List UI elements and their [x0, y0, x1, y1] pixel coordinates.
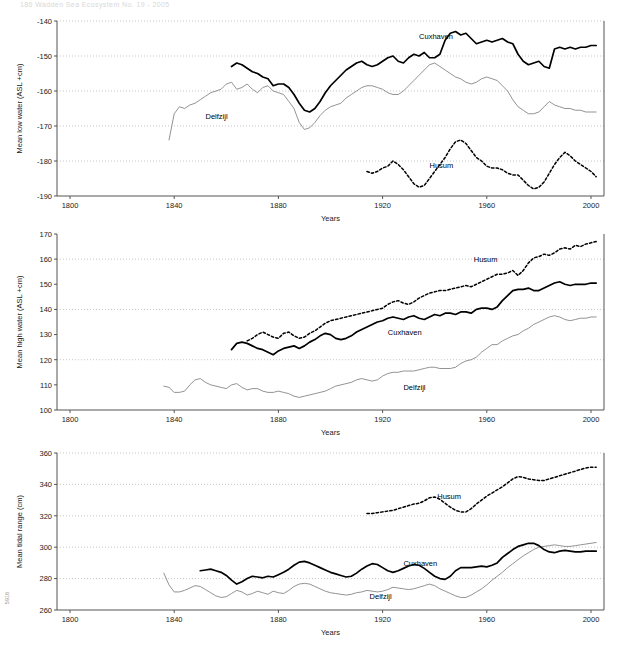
x-axis-title: Years: [321, 214, 340, 222]
series-label-husum: Husum: [474, 255, 498, 264]
x-tick-label: 1880: [270, 201, 287, 210]
y-tick-label: 100: [39, 406, 52, 415]
y-tick-label: 300: [39, 543, 52, 552]
x-tick-label: 1920: [374, 201, 391, 210]
y-tick-label: 130: [39, 330, 52, 339]
series-label-delfzijl: Delfzijl: [403, 383, 425, 392]
x-tick-label: 2000: [583, 415, 600, 424]
series-label-husum: Husum: [437, 492, 461, 501]
series-line-cuxhaven: [232, 32, 597, 113]
x-tick-label: 2000: [583, 615, 600, 624]
y-tick-label: 110: [40, 381, 52, 390]
series-line-husum: [367, 467, 596, 513]
series-line-delfzijl: [164, 316, 596, 398]
x-axis-title: Years: [321, 428, 340, 437]
y-tick-label: 160: [39, 255, 52, 264]
series-line-cuxhaven: [200, 543, 596, 584]
x-tick-label: 2000: [583, 201, 600, 210]
chart-panel-mean-high-water: 1001101201301401501601701800184018801920…: [0, 222, 622, 440]
series-line-husum: [367, 140, 596, 189]
x-tick-label: 1800: [62, 415, 79, 424]
y-tick-label: -170: [37, 122, 52, 131]
axis-lines: [57, 21, 604, 196]
y-axis-title: Mean high water (ASL +cm): [15, 275, 24, 368]
y-tick-label: 320: [39, 512, 52, 521]
y-axis-title: Mean tidal range (cm): [15, 495, 24, 568]
series-label-husum: Husum: [429, 161, 453, 170]
y-axis-title: Mean low water (ASL +cm): [15, 63, 24, 153]
x-tick-label: 1800: [62, 615, 79, 624]
y-tick-label: 150: [39, 280, 52, 289]
x-tick-label: 1880: [270, 615, 287, 624]
series-label-delfzijl: Delfzijl: [205, 112, 227, 121]
chart-svg-1: 1001101201301401501601701800184018801920…: [0, 222, 622, 440]
y-tick-label: -150: [37, 52, 52, 61]
y-tick-label: -190: [37, 192, 52, 201]
series-line-cuxhaven: [232, 282, 597, 355]
x-tick-label: 1840: [166, 201, 183, 210]
y-tick-label: 340: [39, 480, 52, 489]
series-line-husum: [247, 242, 596, 341]
y-tick-label: 140: [39, 305, 52, 314]
x-tick-label: 1960: [478, 415, 495, 424]
series-line-delfzijl: [164, 542, 596, 597]
x-tick-label: 1840: [166, 615, 183, 624]
x-tick-label: 1920: [374, 615, 391, 624]
figure-page: 186 Wadden Sea Ecosystem No. 19 - 2005 -…: [0, 0, 622, 663]
series-label-delfzijl: Delfzijl: [370, 592, 392, 601]
y-tick-label: 360: [39, 449, 52, 458]
series-label-cuxhaven: Cuxhaven: [419, 32, 453, 41]
x-axis-title: Years: [321, 628, 340, 637]
x-tick-label: 1800: [62, 201, 79, 210]
series-label-cuxhaven: Cuxhaven: [388, 328, 422, 337]
y-tick-label: 280: [39, 574, 52, 583]
x-tick-label: 1960: [478, 201, 495, 210]
y-tick-label: -180: [37, 157, 52, 166]
chart-svg-2: 2602803003203403601800184018801920196020…: [0, 440, 622, 663]
side-code: 5916: [4, 592, 10, 604]
series-line-delfzijl: [169, 63, 596, 140]
axis-lines: [57, 234, 604, 410]
chart-panel-mean-low-water: -190-180-170-160-150-1401800184018801920…: [0, 0, 622, 222]
chart-svg-0: -190-180-170-160-150-1401800184018801920…: [0, 0, 622, 222]
y-tick-label: 170: [39, 230, 52, 239]
y-tick-label: -160: [37, 87, 52, 96]
y-tick-label: -140: [37, 17, 52, 26]
chart-panel-mean-tidal-range: 2602803003203403601800184018801920196020…: [0, 440, 622, 663]
x-tick-label: 1840: [166, 415, 183, 424]
y-tick-label: 260: [39, 606, 52, 615]
x-tick-label: 1920: [374, 415, 391, 424]
x-tick-label: 1880: [270, 415, 287, 424]
series-label-cuxhaven: Cuxhaven: [403, 559, 437, 568]
y-tick-label: 120: [39, 356, 52, 365]
x-tick-label: 1960: [478, 615, 495, 624]
